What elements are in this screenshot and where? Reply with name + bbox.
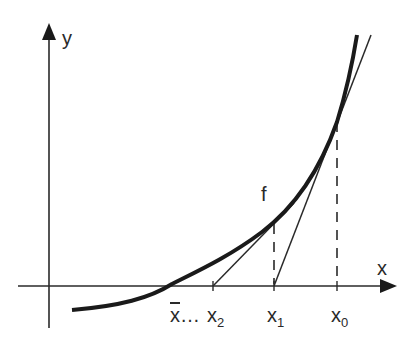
x-axis: [18, 279, 397, 293]
label-x2: x2: [207, 305, 224, 325]
y-axis-label: y: [62, 28, 72, 48]
function-label: f: [261, 184, 267, 204]
x-axis-arrow-icon: [380, 279, 397, 293]
label-x1: x1: [267, 305, 284, 325]
curve-f: [72, 35, 357, 310]
x-axis-label: x: [377, 258, 387, 278]
label-xbar: x…: [170, 305, 200, 325]
y-axis-arrow-icon: [42, 23, 56, 40]
label-x0: x0: [331, 305, 348, 325]
diagram-canvas: [0, 0, 409, 345]
y-axis: [42, 23, 56, 328]
newton-method-diagram: y x f x… x2 x1 x0: [0, 0, 409, 345]
